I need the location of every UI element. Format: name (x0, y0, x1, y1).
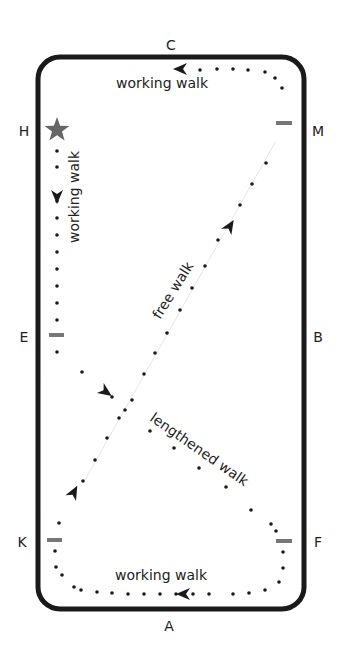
path-dot-top (263, 70, 267, 74)
path-dot-left (55, 318, 59, 322)
path-dot-left (55, 301, 59, 305)
path-dot-bottom (79, 588, 83, 592)
path-dot-top (280, 86, 284, 90)
path-dot-left (55, 149, 59, 153)
path-dot-right_lower (281, 566, 285, 570)
path-dot-left (55, 216, 59, 220)
path-dot-lengthened (249, 508, 253, 512)
letter-a: A (164, 618, 174, 634)
path-dot-bottom (57, 521, 61, 525)
path-dot-left (55, 350, 59, 354)
path-dot-free (203, 264, 207, 268)
path-dot-free (238, 203, 242, 207)
label-working-walk-top: working walk (116, 75, 209, 91)
path-dot-free (216, 238, 220, 242)
path-dot-bottom (95, 590, 99, 594)
arrow-bottom-icon (176, 588, 190, 600)
path-dot-bottom (72, 585, 76, 589)
path-dot-top (198, 68, 202, 72)
path-dot-left (55, 165, 59, 169)
letter-c: C (166, 37, 176, 53)
letter-b: B (313, 329, 323, 345)
path-dot-free (105, 436, 109, 440)
arrow-top-icon (173, 63, 187, 75)
path-dot-free (117, 416, 121, 420)
path-dot-bottom (126, 592, 130, 596)
path-dot-free (178, 308, 182, 312)
path-dot-free (153, 351, 157, 355)
path-dot-lengthened (224, 485, 228, 489)
path-dot-free (81, 479, 85, 483)
path-dot-free (250, 182, 254, 186)
path-dot-free (190, 286, 194, 290)
arrow-free-icon (221, 217, 239, 235)
path-dot-left (55, 284, 59, 288)
label-working-walk-left: working walk (66, 150, 82, 243)
path-dot-bottom (60, 573, 64, 577)
arrow-left-icon (51, 190, 63, 204)
path-dot-right_lower (277, 580, 281, 584)
path-dot-bottom (110, 591, 114, 595)
letter-h: H (19, 123, 30, 139)
path-dot-bottom (54, 565, 58, 569)
path-dot-right_lower (231, 592, 235, 596)
path-dot-bottom (191, 592, 195, 596)
path-dot-free (93, 458, 97, 462)
arena-border (38, 57, 304, 609)
direction-arrows (51, 63, 239, 600)
path-dot-lengthened (80, 370, 84, 374)
path-dot-right_lower (281, 550, 285, 554)
path-dot-right_lower (269, 522, 273, 526)
path-dot-free (165, 331, 169, 335)
path-dot-top (273, 76, 277, 80)
letter-m: M (312, 123, 324, 139)
path-dot-free (264, 161, 268, 165)
path-dot-top (231, 67, 235, 71)
letter-k: K (17, 534, 27, 550)
arrow-free-lower-icon (65, 483, 82, 501)
start-star-icon (45, 117, 70, 141)
letter-f: F (314, 534, 322, 550)
path-dot-top (246, 68, 250, 72)
label-working-walk-bottom: working walk (115, 567, 208, 583)
path-labels: working walkworking walkfree walklengthe… (66, 75, 252, 583)
path-dot-lengthened (172, 446, 176, 450)
path-dot-free (142, 372, 146, 376)
letter-e: E (20, 329, 29, 345)
path-dot-right_lower (247, 591, 251, 595)
path-dot-bottom (207, 592, 211, 596)
label-free-walk: free walk (149, 258, 197, 322)
path-dot-left (55, 233, 59, 237)
path-dot-bottom (53, 549, 57, 553)
dressage-arena-diagram: CHMEBKFA working walkworking walkfree wa… (0, 0, 341, 656)
path-dot-left (55, 267, 59, 271)
path-dot-lengthened (148, 429, 152, 433)
path-dot-bottom (158, 592, 162, 596)
label-lengthened-walk: lengthened walk (147, 409, 252, 489)
path-dot-bottom (142, 592, 146, 596)
path-dot-lengthened (274, 529, 278, 533)
path-dot-free (123, 408, 127, 412)
path-dot-lengthened (197, 466, 201, 470)
letter-markers (47, 123, 292, 541)
path-dot-top (215, 67, 219, 71)
path-dot-free (130, 398, 134, 402)
path-dot-right_lower (263, 588, 267, 592)
path-dot-left (55, 250, 59, 254)
